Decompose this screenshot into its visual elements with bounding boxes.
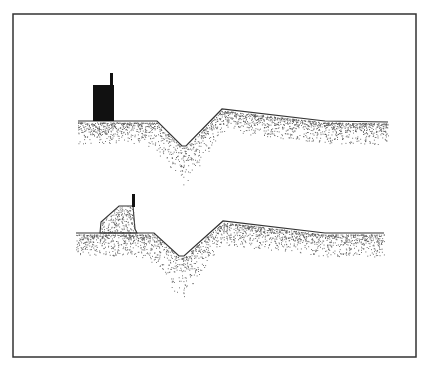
upper-chimney (110, 73, 113, 86)
intact-building (93, 85, 114, 121)
upper-panel (78, 73, 389, 185)
upper-stipple (78, 111, 389, 185)
figure-frame (13, 14, 416, 357)
lower-chimney (132, 194, 135, 207)
cross-section-diagram (0, 0, 429, 367)
lower-stipple (76, 223, 385, 297)
lower-panel (76, 194, 385, 297)
